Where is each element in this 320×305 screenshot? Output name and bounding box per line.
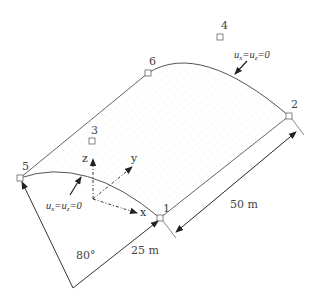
node-6-label: 6 <box>149 55 156 68</box>
node-3-marker <box>89 138 95 144</box>
node-4-marker <box>217 34 223 40</box>
back-boundary-condition-label: ux=uz=0 <box>234 49 271 62</box>
node-5-marker <box>17 175 23 181</box>
node-2-marker <box>286 113 292 119</box>
x-axis-arrow <box>93 199 137 213</box>
node-4-label: 4 <box>221 19 228 32</box>
extension-line-2 <box>292 119 304 135</box>
front-bc-arrow <box>70 177 81 195</box>
z-axis-label: z <box>82 152 88 165</box>
radius-label: 25 m <box>131 244 159 257</box>
angle-label: 80° <box>76 249 96 262</box>
node-1-label: 1 <box>163 202 170 215</box>
roof-shell-diagram: 1 2 3 4 5 6 ux=uz=0 ux=uz=0 z y x 80° 25… <box>0 0 320 305</box>
radius-line-left <box>22 182 73 288</box>
extension-line-1 <box>163 221 176 238</box>
node-1-marker <box>157 215 163 221</box>
front-boundary-condition-label: ux=uz=0 <box>46 200 83 213</box>
node-2-label: 2 <box>291 98 298 111</box>
x-axis-label: x <box>140 206 147 219</box>
node-5-label: 5 <box>22 160 29 173</box>
y-axis-label: y <box>130 152 138 165</box>
back-bc-arrow <box>235 61 247 74</box>
node-3-label: 3 <box>91 124 98 137</box>
length-label: 50 m <box>230 198 258 211</box>
node-6-marker <box>145 70 151 76</box>
